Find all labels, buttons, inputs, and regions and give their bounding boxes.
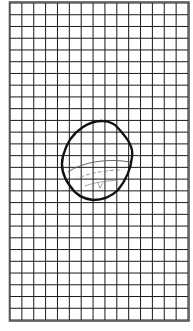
inner-arc-upper xyxy=(68,160,130,172)
inner-arc-lower xyxy=(85,180,117,186)
inner-arc-middle xyxy=(75,170,122,180)
grid-paper xyxy=(0,0,193,331)
inner-notch xyxy=(98,183,103,188)
grid-figure xyxy=(0,0,193,331)
blob-shape xyxy=(62,121,132,200)
